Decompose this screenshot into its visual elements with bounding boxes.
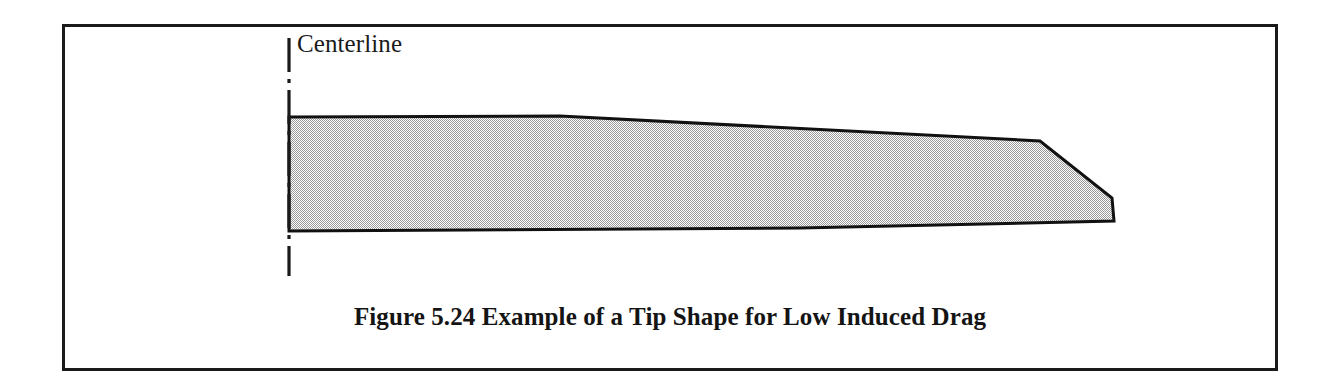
figure-caption: Figure 5.24 Example of a Tip Shape for L… (65, 303, 1275, 331)
centerline-label: Centerline (297, 30, 402, 58)
